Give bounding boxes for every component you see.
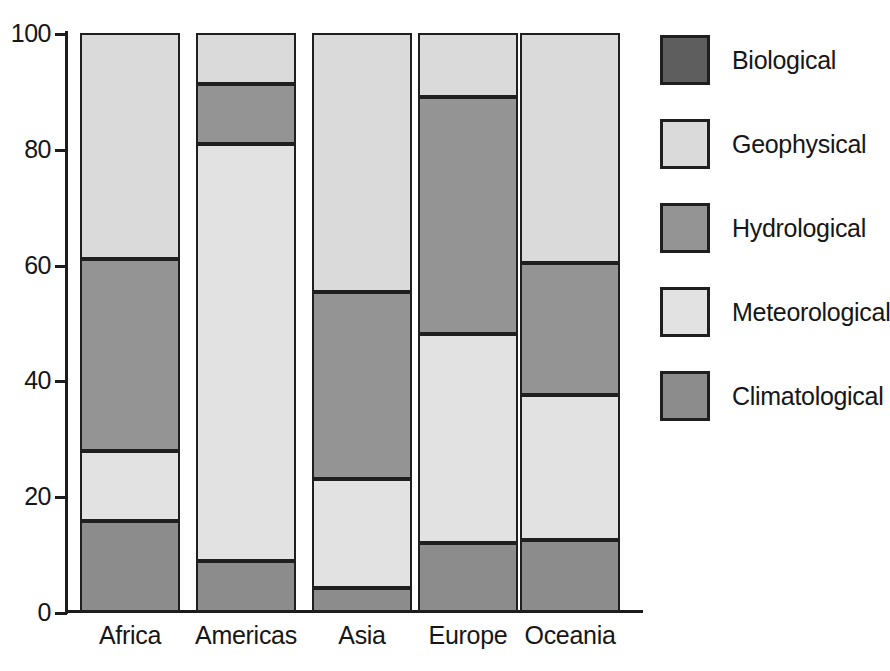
y-tick-label: 20	[24, 482, 51, 511]
bar-segment-climatological[interactable]	[312, 588, 412, 612]
bar-segment-hydrological[interactable]	[520, 263, 620, 394]
y-tick-label: 100	[11, 19, 51, 48]
bar-segment-hydrological[interactable]	[312, 292, 412, 479]
y-tick-mark	[55, 149, 67, 152]
legend-swatch-meteorological	[660, 287, 710, 337]
bar-segment-geophysical[interactable]	[520, 33, 620, 263]
legend-swatch-climatological	[660, 371, 710, 421]
bar-segment-climatological[interactable]	[196, 561, 296, 612]
y-tick-label: 60	[24, 250, 51, 279]
y-tick-label: 80	[24, 134, 51, 163]
bar-segment-climatological[interactable]	[418, 543, 518, 612]
y-tick-mark	[55, 612, 67, 615]
y-tick-label: 40	[24, 366, 51, 395]
legend-swatch-geophysical	[660, 119, 710, 169]
x-tick-label-oceania: Oceania	[495, 621, 645, 650]
y-tick-mark	[55, 496, 67, 499]
bar-asia[interactable]	[312, 33, 412, 612]
bar-segment-geophysical[interactable]	[80, 33, 180, 259]
legend-item-geophysical[interactable]: Geophysical	[660, 118, 866, 170]
bar-segment-hydrological[interactable]	[418, 97, 518, 334]
bar-segment-meteorological[interactable]	[80, 451, 180, 521]
bar-europe[interactable]	[418, 33, 518, 612]
bar-segment-meteorological[interactable]	[520, 395, 620, 540]
bar-segment-climatological[interactable]	[520, 540, 620, 612]
bar-segment-hydrological[interactable]	[196, 84, 296, 144]
legend-swatch-biological	[660, 35, 710, 85]
bar-africa[interactable]	[80, 33, 180, 612]
bar-segment-meteorological[interactable]	[196, 144, 296, 561]
y-tick-mark	[55, 265, 67, 268]
plot-area	[67, 33, 633, 612]
legend-item-biological[interactable]: Biological	[660, 34, 836, 86]
bar-segment-geophysical[interactable]	[312, 33, 412, 292]
bar-segment-climatological[interactable]	[80, 521, 180, 612]
bar-segment-geophysical[interactable]	[418, 33, 518, 97]
y-tick-mark	[55, 380, 67, 383]
legend-swatch-hydrological	[660, 203, 710, 253]
legend-label: Climatological	[732, 382, 883, 411]
y-tick-label: 0	[38, 598, 51, 627]
bar-segment-hydrological[interactable]	[80, 259, 180, 451]
y-tick-mark	[55, 33, 67, 36]
legend-label: Biological	[732, 46, 836, 75]
bar-oceania[interactable]	[520, 33, 620, 612]
legend-label: Geophysical	[732, 130, 866, 159]
bar-segment-geophysical[interactable]	[196, 33, 296, 84]
legend-item-meteorological[interactable]: Meteorological	[660, 286, 890, 338]
legend-item-climatological[interactable]: Climatological	[660, 370, 883, 422]
legend-item-hydrological[interactable]: Hydrological	[660, 202, 866, 254]
legend-label: Meteorological	[732, 298, 890, 327]
legend-label: Hydrological	[732, 214, 866, 243]
bar-segment-meteorological[interactable]	[312, 479, 412, 588]
bar-americas[interactable]	[196, 33, 296, 612]
bar-segment-meteorological[interactable]	[418, 334, 518, 542]
